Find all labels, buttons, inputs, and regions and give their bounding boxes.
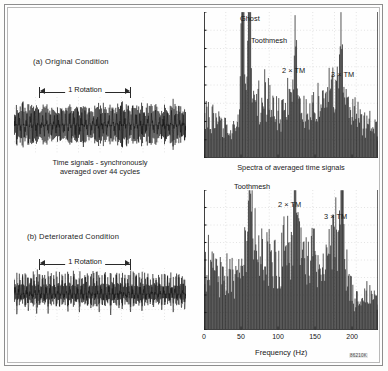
frequency-tick-100: 100	[272, 333, 284, 340]
panel-b-time-signal-plot	[14, 268, 186, 320]
rotation-arrow-right-b	[125, 260, 130, 266]
panel-a-caption-line2: averaged over 44 cycles	[60, 167, 140, 176]
panel-b-condition-label: (b) Deteriorated Condition	[27, 232, 119, 241]
panel-a-time-signal-plot	[14, 97, 186, 153]
panel-a-caption-line1: Time signals - synchronously	[52, 158, 147, 167]
figure-reference-code: 86210K	[349, 353, 368, 358]
rotation-arrow-left-b	[40, 260, 45, 266]
spectra-caption-text: Spectra of averaged time signals	[237, 163, 345, 172]
frequency-tick-200: 200	[346, 333, 358, 340]
panel-a-rotation-label: 1 Rotation	[65, 85, 105, 94]
frequency-tick-0: 0	[202, 333, 206, 340]
figure-root: (a) Original Condition 1 Rotation Time s…	[0, 0, 388, 371]
spectra-caption: Spectra of averaged time signals	[204, 163, 378, 172]
top-spectrum-plot	[204, 12, 378, 158]
rotation-arrow-right-a	[125, 88, 130, 94]
bottom-spectrum-plot	[204, 190, 378, 330]
frequency-tick-50: 50	[237, 333, 245, 340]
panel-a-condition-label: (a) Original Condition	[33, 57, 109, 66]
frequency-tick-150: 150	[309, 333, 321, 340]
panel-b-rotation-label: 1 Rotation	[65, 257, 105, 266]
panel-a-caption: Time signals - synchronously averaged ov…	[14, 158, 186, 177]
frequency-axis-title: Frequency (Hz)	[255, 348, 307, 357]
rotation-arrow-left-a	[40, 88, 45, 94]
